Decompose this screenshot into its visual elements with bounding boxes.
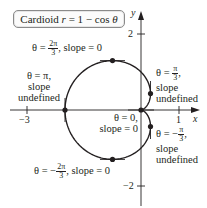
annotation-theta-pi: θ = π, slope undefined: [14, 70, 64, 103]
annotation-suffix: , slope = 0: [66, 165, 110, 176]
y-tick-label-2: 2: [128, 29, 133, 39]
title-eq: = 1 − cos: [66, 13, 112, 25]
annotation-suffix: , slope = 0: [58, 42, 102, 53]
annotation-line3: undefined: [14, 92, 64, 103]
annotation-line2: slope = 0: [86, 123, 138, 134]
annotation-line2: slope: [156, 82, 198, 93]
point-theta-neg2pi-3: [110, 157, 115, 162]
annotation-prefix: θ = −: [156, 128, 178, 139]
point-theta-pi: [62, 107, 67, 112]
y-tick-label-neg2: −2: [123, 181, 134, 191]
annotation-line1: θ = 0,: [86, 112, 138, 123]
annotation-line1: θ = π,: [14, 70, 64, 81]
annotation-suffix: ,: [178, 67, 181, 78]
y-axis-arrow-icon: [138, 11, 144, 20]
title-box: Cardioid r = 1 − cos θ: [13, 10, 125, 28]
annotation-prefix: θ =: [156, 67, 172, 78]
annotation-theta-pi-3: θ = π3, slope undefined: [156, 65, 198, 104]
annotation-suffix: ,: [184, 128, 187, 139]
annotation-theta-2pi-3: θ = 2π3, slope = 0: [32, 40, 102, 57]
annotation-theta-0: θ = 0, slope = 0: [86, 112, 138, 134]
x-tick-label-1: 1: [176, 115, 181, 125]
y-axis-label: y: [131, 8, 135, 18]
point-theta-negpi-3: [148, 124, 153, 129]
annotation-theta-neg-2pi-3: θ = −2π3, slope = 0: [34, 163, 110, 180]
title-theta: θ: [112, 13, 117, 25]
x-tick-label-neg3: −3: [19, 115, 30, 125]
annotation-line3: undefined: [156, 154, 198, 165]
title-prefix: Cardioid: [20, 13, 61, 25]
point-theta-pi-3: [148, 91, 153, 96]
fraction-den: 3: [48, 49, 58, 57]
annotation-prefix: θ = −: [34, 165, 56, 176]
annotation-theta-neg-pi-3: θ = −π3, slope undefined: [156, 126, 198, 165]
x-axis-label: x: [193, 114, 197, 124]
annotation-line2: slope: [14, 81, 64, 92]
annotation-line3: undefined: [156, 93, 198, 104]
annotation-line2: slope: [156, 143, 198, 154]
point-theta-0: [138, 107, 143, 112]
fraction: 2π3: [48, 40, 58, 57]
point-theta-2pi-3: [110, 58, 115, 63]
fraction: 2π3: [56, 163, 66, 180]
annotation-prefix: θ =: [32, 42, 48, 53]
fraction-den: 3: [56, 172, 66, 180]
